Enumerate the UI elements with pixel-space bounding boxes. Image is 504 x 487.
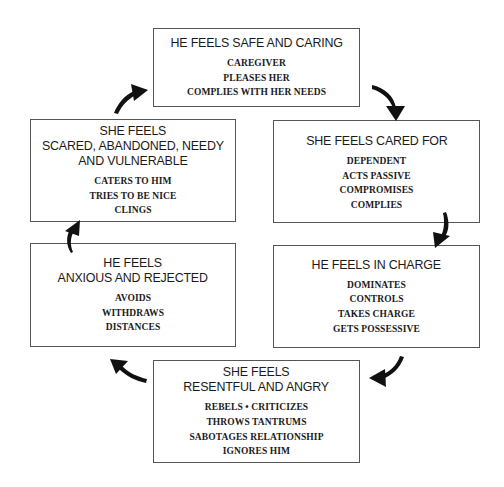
behavior-item: DISTANCES [102, 320, 164, 335]
behavior-item: IGNORES HIM [189, 444, 323, 459]
box-title: SHE FEELS RESENTFUL AND ANGRY [184, 364, 330, 394]
title-line: SHE FEELS [42, 123, 224, 138]
behavior-item: WITHDRAWS [102, 306, 164, 321]
box-he-feels-in-charge: HE FEELS IN CHARGE DOMINATES CONTROLS TA… [273, 245, 480, 348]
title-line: SHE FEELS [184, 364, 330, 379]
behavior-item: AVOIDS [102, 291, 164, 306]
box-title: SHE FEELS SCARED, ABANDONED, NEEDY AND V… [42, 123, 224, 168]
behavior-list: DEPENDENT ACTS PASSIVE COMPROMISES COMPL… [340, 154, 414, 212]
behavior-item: REBELS • CRITICIZES [189, 400, 323, 415]
curved-arrow-up-right-icon [114, 84, 148, 114]
behavior-item: DOMINATES [333, 278, 420, 293]
box-title: HE FEELS ANXIOUS AND REJECTED [58, 255, 208, 285]
behavior-item: THROWS TANTRUMS [189, 415, 323, 430]
box-title: HE FEELS IN CHARGE [312, 257, 441, 272]
box-she-feels-cared-for: SHE FEELS CARED FOR DEPENDENT ACTS PASSI… [273, 120, 480, 223]
behavior-item: CLINGS [89, 203, 176, 218]
behavior-item: COMPROMISES [340, 183, 414, 198]
behavior-list: DOMINATES CONTROLS TAKES CHARGE GETS POS… [333, 278, 420, 336]
box-title: SHE FEELS CARED FOR [306, 133, 447, 148]
title-line: ANXIOUS AND REJECTED [58, 270, 208, 285]
title-line: HE FEELS [58, 255, 208, 270]
title-line: RESENTFUL AND ANGRY [184, 379, 330, 394]
title-line: SCARED, ABANDONED, NEEDY [42, 138, 224, 153]
behavior-item: DEPENDENT [340, 154, 414, 169]
box-she-feels-scared-abandoned: SHE FEELS SCARED, ABANDONED, NEEDY AND V… [30, 119, 236, 222]
behavior-list: CAREGIVER PLEASES HER COMPLIES WITH HER … [187, 56, 326, 100]
behavior-item: COMPLIES [340, 198, 414, 213]
behavior-item: CONTROLS [333, 292, 420, 307]
title-line: SHE FEELS CARED FOR [306, 133, 447, 148]
behavior-item: SABOTAGES RELATIONSHIP [189, 430, 323, 445]
box-title: HE FEELS SAFE AND CARING [170, 35, 342, 50]
box-she-feels-resentful-and-angry: SHE FEELS RESENTFUL AND ANGRY REBELS • C… [153, 360, 360, 463]
title-line: HE FEELS IN CHARGE [312, 257, 441, 272]
behavior-list: AVOIDS WITHDRAWS DISTANCES [102, 291, 164, 335]
behavior-list: REBELS • CRITICIZES THROWS TANTRUMS SABO… [189, 400, 323, 458]
behavior-item: CAREGIVER [187, 56, 326, 71]
behavior-item: CATERS TO HIM [89, 174, 176, 189]
curved-arrow-up-left-icon [110, 359, 147, 383]
behavior-item: GETS POSSESSIVE [333, 322, 420, 337]
behavior-item: COMPLIES WITH HER NEEDS [187, 85, 326, 100]
behavior-item: ACTS PASSIVE [340, 169, 414, 184]
behavior-item: TAKES CHARGE [333, 307, 420, 322]
curved-arrow-down-left-icon [369, 356, 404, 387]
title-line: AND VULNERABLE [42, 153, 224, 168]
title-line: HE FEELS SAFE AND CARING [170, 35, 342, 50]
curved-arrow-down-right-icon [372, 85, 405, 121]
behavior-list: CATERS TO HIM TRIES TO BE NICE CLINGS [89, 174, 176, 218]
box-he-feels-anxious-and-rejected: HE FEELS ANXIOUS AND REJECTED AVOIDS WIT… [30, 243, 236, 347]
box-he-feels-safe-and-caring: HE FEELS SAFE AND CARING CAREGIVER PLEAS… [153, 28, 360, 107]
behavior-item: PLEASES HER [187, 71, 326, 86]
behavior-item: TRIES TO BE NICE [89, 189, 176, 204]
